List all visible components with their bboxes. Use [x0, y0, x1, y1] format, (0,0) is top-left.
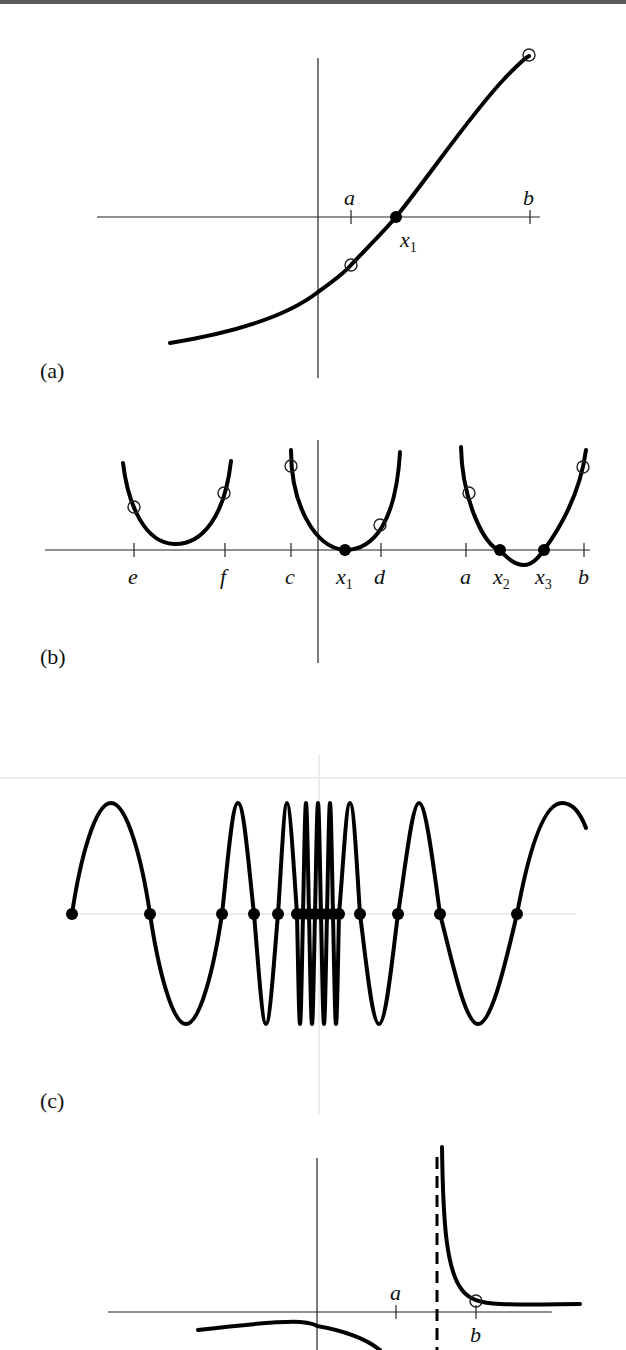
- panel-b-root-x1: [339, 544, 351, 556]
- panel-a-label-x1: x1: [399, 227, 417, 255]
- panel-c-root: [333, 908, 345, 920]
- panel-d-left-branch: [198, 1322, 380, 1350]
- panel-d-label-a: a: [390, 1280, 401, 1305]
- panel-b-caption: (b): [40, 644, 66, 669]
- panel-b-label-x2: x2: [492, 564, 510, 592]
- panel-c-root: [66, 908, 78, 920]
- panel-c-root: [248, 908, 260, 920]
- panel-d: a b: [108, 1147, 580, 1350]
- panel-c-root: [434, 908, 446, 920]
- panel-b-label-e: e: [128, 564, 138, 589]
- root-finding-figure: a b x1 (a) e f c x1 d a x2: [0, 0, 626, 1350]
- panel-c-caption: (c): [40, 1088, 64, 1113]
- panel-a-label-a: a: [344, 185, 355, 210]
- panel-c-root: [272, 908, 284, 920]
- panel-b-label-f: f: [220, 564, 229, 589]
- panel-b-label-x3: x3: [534, 564, 552, 592]
- panel-b-label-x1: x1: [335, 564, 353, 592]
- panel-b-curve-ab: [461, 447, 586, 565]
- panel-b-label-a: a: [460, 564, 471, 589]
- panel-b-curve-cd: [291, 450, 400, 550]
- panel-b-label-d: d: [374, 564, 386, 589]
- panel-b-label-c: c: [285, 564, 295, 589]
- panel-b-curve-ef: [123, 461, 231, 544]
- panel-b: e f c x1 d a x2 x3 b (b): [40, 440, 590, 669]
- panel-b-root-x3: [538, 544, 550, 556]
- panel-a-caption: (a): [40, 358, 64, 383]
- panel-d-right-branch: [442, 1147, 580, 1304]
- panel-b-label-b: b: [578, 564, 589, 589]
- panel-d-label-b: b: [470, 1322, 481, 1347]
- panel-a-root-x1: [390, 211, 402, 223]
- panel-c-root: [144, 908, 156, 920]
- panel-c-root: [354, 908, 366, 920]
- panel-c-root: [392, 908, 404, 920]
- panel-a: a b x1 (a): [40, 49, 540, 383]
- panel-c: (c): [40, 803, 586, 1113]
- panel-b-root-x2: [494, 544, 506, 556]
- panel-c-root: [511, 908, 523, 920]
- panel-a-label-b: b: [523, 185, 534, 210]
- panel-c-root: [216, 908, 228, 920]
